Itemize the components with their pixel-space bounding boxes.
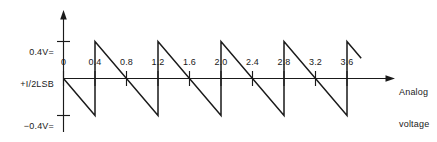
x-tick-label-1-2: 1.2 bbox=[143, 57, 173, 68]
y-axis-lower-label-line1: −0.4V= bbox=[0, 121, 54, 132]
x-axis-title-line1: Analog bbox=[399, 87, 429, 98]
x-tick-label-0-4: 0.4 bbox=[80, 57, 110, 68]
x-axis-arrow-icon bbox=[386, 75, 396, 82]
x-axis-title: Analog voltage bbox=[399, 66, 429, 142]
x-tick-label-0-8: 0.8 bbox=[112, 57, 142, 68]
x-tick-label-2-0: 2.0 bbox=[206, 57, 236, 68]
y-axis-lower-label: −0.4V= −I/2LSB bbox=[0, 100, 54, 142]
y-axis-arrow-icon bbox=[60, 10, 67, 20]
x-tick-label-0: 0 bbox=[49, 57, 79, 68]
x-tick-label-3-2: 3.2 bbox=[301, 57, 331, 68]
x-tick-label-3-6: 3.6 bbox=[332, 57, 362, 68]
x-tick-label-1-6: 1.6 bbox=[175, 57, 205, 68]
y-axis-upper-label-line1: 0.4V= bbox=[0, 47, 54, 58]
x-tick-label-2-4: 2.4 bbox=[238, 57, 268, 68]
x-axis-title-line2: voltage bbox=[399, 119, 429, 130]
quantization-error-figure: 0.4V= +I/2LSB −0.4V= −I/2LSB 0 0.4 0.8 1… bbox=[0, 0, 437, 142]
y-axis-upper-label-line2: +I/2LSB bbox=[0, 79, 54, 90]
plot-canvas bbox=[0, 0, 437, 142]
y-axis-upper-label: 0.4V= +I/2LSB bbox=[0, 26, 54, 111]
x-tick-label-2-8: 2.8 bbox=[269, 57, 299, 68]
